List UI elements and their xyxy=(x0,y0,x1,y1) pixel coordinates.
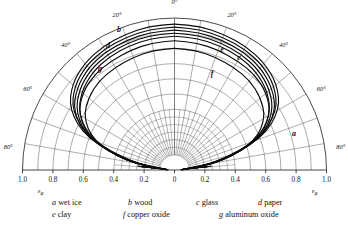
legend-text-g: aluminum oxide xyxy=(225,210,278,219)
x-tick-label-0: 1.0 xyxy=(18,176,27,184)
legend-key-b: b xyxy=(128,198,132,207)
legend-item-a: a wet ice xyxy=(52,198,82,207)
legend-item-d: d paper xyxy=(258,198,282,207)
legend-item-c: c glass xyxy=(196,198,218,207)
legend-item-e: e clay xyxy=(52,210,71,219)
x-tick-label-5: 0 xyxy=(173,176,177,184)
polar-emissivity-figure: 0°20°20°40°40°60°60°80°80°1.00.80.60.40.… xyxy=(0,0,348,235)
legend-key-g: g xyxy=(219,210,223,219)
angle-label-40-left: 40° xyxy=(61,41,70,48)
angle-label-80-left: 80° xyxy=(4,143,13,150)
legend-key-d: d xyxy=(258,198,262,207)
legend-key-a: a xyxy=(52,198,56,207)
angle-label-20-left: 20° xyxy=(113,11,122,18)
legend-text-d: paper xyxy=(264,198,282,207)
legend-text-b: wood xyxy=(134,198,152,207)
axis-symbol-right: εφ xyxy=(312,187,318,196)
angle-label-20-right: 20° xyxy=(227,11,236,18)
legend-item-b: b wood xyxy=(128,198,152,207)
angle-label-80-right: 80° xyxy=(336,143,345,150)
x-tick-label-9: 0.8 xyxy=(292,176,301,184)
plot-axis xyxy=(23,170,327,173)
x-tick-label-3: 0.4 xyxy=(109,176,118,184)
legend-text-a: wet ice xyxy=(58,198,81,207)
legend-key-f: f xyxy=(123,210,125,219)
curve-label-a: a xyxy=(292,129,296,138)
legend-text-c: glass xyxy=(202,198,218,207)
x-tick-label-7: 0.4 xyxy=(231,176,240,184)
axis-symbol-left: εφ xyxy=(38,187,44,196)
angle-label-40-right: 40° xyxy=(279,41,288,48)
x-tick-label-1: 0.8 xyxy=(48,176,57,184)
x-tick-label-10: 1.0 xyxy=(322,176,331,184)
curve-label-g: g xyxy=(97,64,102,73)
legend-key-e: e xyxy=(52,210,56,219)
legend-text-f: copper oxide xyxy=(127,210,170,219)
x-tick-label-8: 0.6 xyxy=(261,176,270,184)
legend-key-c: c xyxy=(196,198,200,207)
x-tick-label-4: 0.2 xyxy=(140,176,149,184)
x-tick-label-2: 0.6 xyxy=(79,176,88,184)
curve-label-f: f xyxy=(211,69,215,78)
x-tick-label-6: 0.2 xyxy=(200,176,209,184)
angle-label-60-left: 60° xyxy=(23,85,32,92)
legend-item-g: g aluminum oxide xyxy=(219,210,279,219)
curve-label-e: e xyxy=(220,45,224,54)
curve-label-b: b xyxy=(117,25,121,34)
curve-label-c: c xyxy=(237,53,241,62)
angle-label-60-right: 60° xyxy=(317,85,326,92)
legend-item-f: f copper oxide xyxy=(123,210,170,219)
angle-label-0: 0° xyxy=(172,0,178,5)
legend-text-e: clay xyxy=(58,210,72,219)
